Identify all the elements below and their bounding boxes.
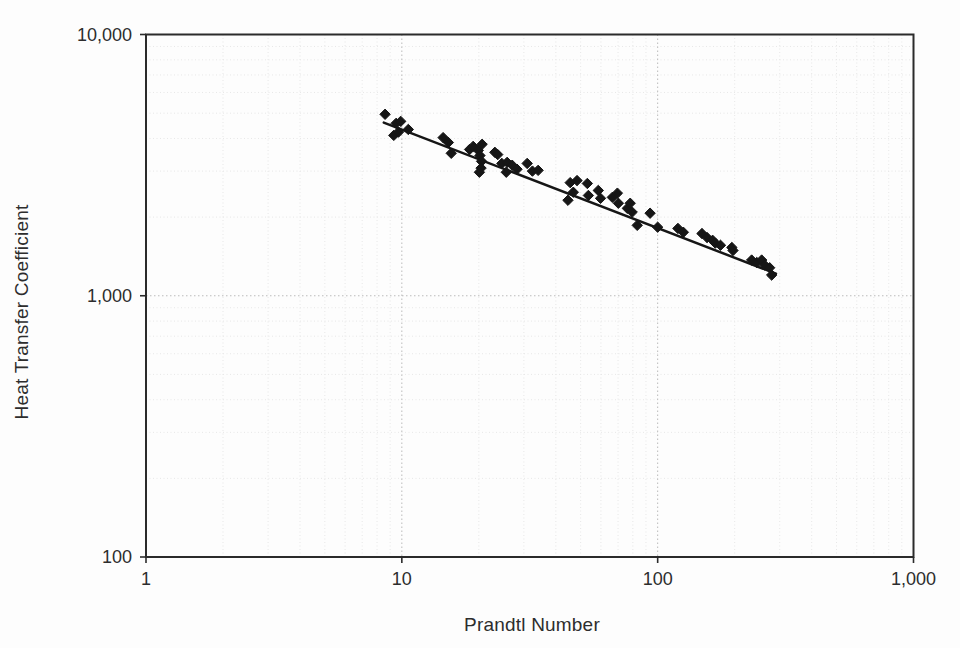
chart-figure: 1101001,0001001,00010,000 Prandtl Number… bbox=[0, 0, 960, 648]
x-tick-label: 1 bbox=[141, 569, 151, 589]
x-axis-title: Prandtl Number bbox=[0, 614, 960, 636]
data-point bbox=[563, 195, 573, 205]
scatter-plot: 1101001,0001001,00010,000 bbox=[0, 0, 960, 648]
x-tick-label: 1,000 bbox=[891, 569, 936, 589]
y-tick-label: 100 bbox=[102, 547, 132, 567]
y-tick-label: 1,000 bbox=[87, 286, 132, 306]
y-axis-title: Heat Transfer Coefficient bbox=[11, 205, 33, 420]
scanned-chart-page: 1101001,0001001,00010,000 Prandtl Number… bbox=[0, 0, 960, 648]
data-point bbox=[380, 109, 390, 119]
trend-line bbox=[384, 123, 776, 274]
data-point bbox=[582, 178, 592, 188]
y-axis-title-text: Heat Transfer Coefficient bbox=[11, 205, 32, 420]
x-tick-label: 100 bbox=[643, 569, 673, 589]
y-tick-label: 10,000 bbox=[77, 25, 132, 45]
x-tick-label: 10 bbox=[392, 569, 412, 589]
x-axis-title-text: Prandtl Number bbox=[464, 614, 600, 636]
